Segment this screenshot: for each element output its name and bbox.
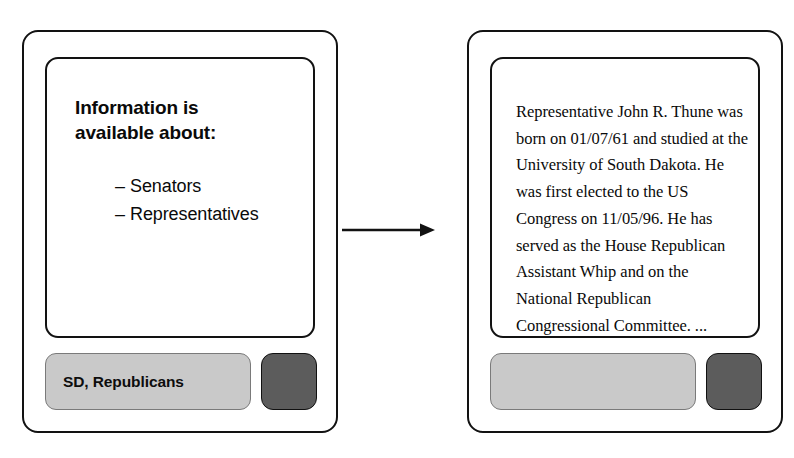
device-left: Information is available about: –Senator… [22, 30, 338, 433]
dash-bullet-icon: – [115, 172, 130, 200]
option-label: Senators [130, 176, 201, 196]
option-label: Representatives [130, 204, 259, 224]
query-input-left-value: SD, Republicans [63, 373, 184, 391]
result-text: Representative John R. Thune was born on… [516, 99, 748, 338]
prompt-block: Information is available about: –Senator… [75, 95, 301, 228]
query-input-right[interactable] [490, 353, 696, 410]
right-device-control-row [490, 353, 762, 410]
prompt-heading: Information is available about: [75, 95, 301, 146]
query-input-left[interactable]: SD, Republicans [45, 353, 251, 410]
dash-bullet-icon: – [115, 200, 130, 228]
submit-button-right[interactable] [706, 353, 762, 410]
right-device-screen: Representative John R. Thune was born on… [490, 57, 760, 338]
prompt-heading-line-2: available about: [75, 122, 216, 143]
arrow-right-icon [340, 214, 438, 246]
left-device-control-row: SD, Republicans [45, 353, 317, 410]
left-device-screen: Information is available about: –Senator… [45, 57, 315, 338]
option-list: –Senators –Representatives [75, 172, 301, 229]
prompt-heading-line-1: Information is [75, 97, 199, 118]
list-item-senators[interactable]: –Senators [115, 172, 301, 200]
submit-button-left[interactable] [261, 353, 317, 410]
device-right: Representative John R. Thune was born on… [467, 30, 783, 433]
list-item-representatives[interactable]: –Representatives [115, 200, 301, 228]
